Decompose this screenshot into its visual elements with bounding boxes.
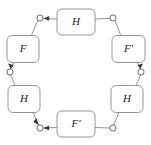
node-lower-left-label: H — [19, 92, 29, 104]
edge-top-to-port-top-right — [95, 18, 110, 19]
node-upper-left-label: F — [19, 42, 27, 54]
arrowhead-into-port-top-left — [44, 16, 50, 21]
node-upper-right-label: F′ — [123, 42, 134, 54]
arrowhead-into-port-bottom-left-from-bottom — [44, 126, 50, 131]
node-top[interactable]: H — [57, 9, 95, 35]
port-top-right-circle[interactable] — [110, 15, 116, 21]
node-upper-left[interactable]: F — [7, 36, 39, 63]
node-layer: H F F′ H H F′ — [7, 9, 145, 137]
node-bottom[interactable]: F′ — [57, 111, 95, 137]
port-right-mid-circle[interactable] — [138, 69, 144, 75]
cyclic-diagram: H F F′ H H F′ — [0, 0, 151, 145]
edge-port-top-right-to-upper-right — [115, 20, 122, 37]
node-top-label: H — [71, 15, 81, 27]
edge-lower-right-to-port-bottom-right — [114, 111, 120, 125]
edge-port-bottom-right-to-bottom — [95, 128, 110, 129]
edge-port-top-left-to-upper-left — [31, 20, 39, 37]
edge-port-left-mid-to-lower-left — [11, 75, 16, 86]
node-lower-right[interactable]: H — [111, 86, 143, 113]
port-top-left-circle[interactable] — [37, 15, 43, 21]
node-upper-right[interactable]: F′ — [112, 36, 145, 63]
port-bottom-left-circle[interactable] — [37, 125, 43, 131]
node-lower-right-label: H — [122, 92, 132, 104]
node-lower-left[interactable]: H — [8, 86, 40, 113]
port-bottom-right-circle[interactable] — [110, 125, 116, 131]
port-left-mid-circle[interactable] — [7, 69, 13, 75]
arrowhead-into-port-bottom-left-from-lower-left — [33, 118, 38, 125]
node-bottom-label: F′ — [70, 117, 81, 129]
diagram-canvas: H F F′ H H F′ — [0, 0, 151, 145]
edge-port-right-mid-to-lower-right — [136, 75, 141, 86]
